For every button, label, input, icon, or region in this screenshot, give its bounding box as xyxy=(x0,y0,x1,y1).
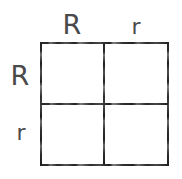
punnett-cell-row1-col0[interactable] xyxy=(42,106,102,163)
punnett-cell-row0-col1[interactable] xyxy=(106,44,166,102)
column-label-R: R xyxy=(58,11,86,38)
punnett-cell-row0-col0[interactable] xyxy=(42,44,102,102)
punnett-cell-row1-col1[interactable] xyxy=(106,106,166,163)
grid-divider-horizontal xyxy=(41,103,168,105)
punnett-grid xyxy=(40,42,169,166)
punnett-square-figure: R r R r xyxy=(0,0,182,179)
row-label-R: R xyxy=(6,62,34,89)
punnett-cell-text xyxy=(42,44,102,102)
punnett-cell-text xyxy=(106,106,166,163)
column-label-r: r xyxy=(123,16,149,38)
row-label-r: r xyxy=(8,122,34,144)
punnett-cell-text xyxy=(106,44,166,102)
punnett-cell-text xyxy=(42,106,102,163)
